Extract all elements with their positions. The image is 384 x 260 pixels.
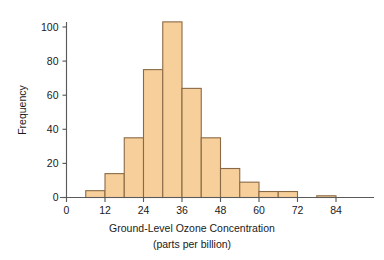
x-axis-title-units: (parts per billion) xyxy=(153,238,231,250)
y-axis-ticks: 020406080100 xyxy=(41,21,67,204)
histogram-bar xyxy=(201,138,220,198)
x-tick-label: 12 xyxy=(99,204,111,216)
bar-series xyxy=(86,22,336,198)
histogram-bar xyxy=(182,88,201,197)
histogram-bar xyxy=(105,174,124,198)
histogram-bar xyxy=(259,192,278,198)
histogram-chart: 020406080100 012243648607284 Frequency G… xyxy=(0,0,384,260)
x-tick-label: 72 xyxy=(292,204,304,216)
x-tick-label: 24 xyxy=(138,204,150,216)
y-tick-label: 80 xyxy=(47,55,59,67)
x-tick-label: 0 xyxy=(64,204,70,216)
x-tick-label: 36 xyxy=(176,204,188,216)
y-axis-title: Frequency xyxy=(16,84,28,134)
histogram-bar xyxy=(124,138,143,198)
histogram-bar xyxy=(278,192,297,198)
histogram-bar xyxy=(144,70,163,198)
y-tick-label: 60 xyxy=(47,89,59,101)
histogram-bar xyxy=(240,182,259,197)
y-tick-label: 40 xyxy=(47,123,59,135)
histogram-bar xyxy=(221,169,240,198)
y-tick-label: 20 xyxy=(47,157,59,169)
x-axis-ticks: 012243648607284 xyxy=(64,198,342,216)
y-tick-label: 0 xyxy=(53,191,59,203)
x-tick-label: 60 xyxy=(253,204,265,216)
x-tick-label: 48 xyxy=(215,204,227,216)
x-axis-title: Ground-Level Ozone Concentration xyxy=(109,222,275,234)
y-tick-label: 100 xyxy=(41,21,59,33)
histogram-bar xyxy=(86,191,105,198)
x-tick-label: 84 xyxy=(330,204,342,216)
chart-canvas: 020406080100 012243648607284 Frequency G… xyxy=(0,0,384,260)
histogram-bar xyxy=(163,22,182,198)
